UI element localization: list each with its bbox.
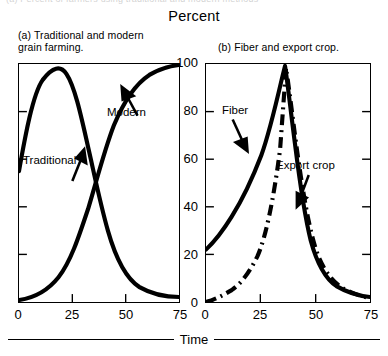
panel-a-x-tick-50: 50 — [114, 308, 138, 321]
panel-b-curves — [206, 64, 370, 302]
panel-a-caption: (a) Traditional and modern grain farming… — [18, 30, 144, 53]
panel-a-x-tick-25: 25 — [60, 308, 84, 321]
panel-b-x-tick-75: 75 — [359, 308, 383, 321]
panel-b-arrow-fiber — [233, 120, 248, 152]
cut-off-header-text: (a) Percent of farmers using traditional… — [0, 0, 388, 7]
panel-b-bottom-ticks — [260, 294, 315, 302]
panel-b-label-export-crop: Export crop — [276, 159, 335, 171]
panel-a-label-modern: Modern — [107, 106, 146, 118]
time-axis: Time — [8, 330, 380, 348]
y-tick-20: 20 — [164, 248, 198, 261]
panel-b-right-ticks — [362, 112, 370, 255]
panel-b-series-fiber — [206, 66, 370, 297]
panel-b-caption: (b) Fiber and export crop. — [218, 42, 339, 54]
y-tick-100: 100 — [164, 56, 198, 69]
panel-a-series-modern — [19, 65, 179, 300]
panel-a-curves — [19, 64, 179, 302]
panel-b-plot-area: Fiber Export crop — [205, 63, 371, 303]
panel-a-plot-area: Traditional Modern — [18, 63, 180, 303]
panel-b-x-tick-0: 0 — [193, 308, 217, 321]
panel-a-bottom-ticks — [72, 294, 125, 302]
panel-b-label-fiber: Fiber — [222, 104, 248, 116]
panel-a-x-tick-75: 75 — [168, 308, 192, 321]
panel-b-x-tick-25: 25 — [248, 308, 272, 321]
y-tick-80: 80 — [164, 104, 198, 117]
panel-b-x-tick-50: 50 — [304, 308, 328, 321]
y-tick-60: 60 — [164, 152, 198, 165]
figure-root: (a) Percent of farmers using traditional… — [0, 0, 388, 356]
time-rule-right — [214, 339, 380, 340]
panel-a-x-tick-0: 0 — [6, 308, 30, 321]
time-rule-left — [8, 339, 174, 340]
figure-title: Percent — [0, 8, 388, 24]
y-tick-40: 40 — [164, 200, 198, 213]
panel-a-series-traditional — [19, 68, 179, 297]
time-axis-label: Time — [178, 333, 210, 346]
panel-b-left-ticks — [206, 112, 214, 255]
panel-a-label-traditional: Traditional — [23, 154, 76, 166]
